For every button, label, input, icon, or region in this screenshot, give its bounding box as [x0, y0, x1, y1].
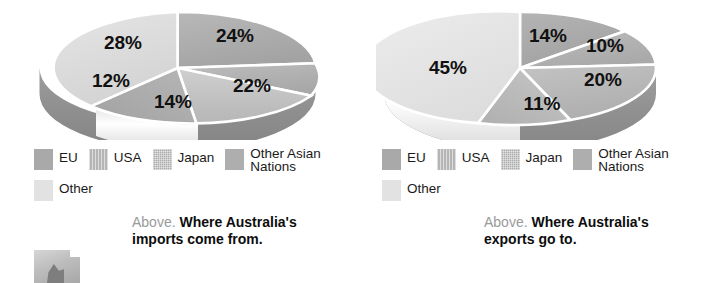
legend-item-usa[interactable]: USA — [89, 148, 142, 170]
legend-label-usa: USA — [462, 148, 490, 165]
legend-row-secondary: Other — [34, 179, 344, 201]
legend-swatch-usa-icon — [437, 149, 456, 170]
legend-label-usa: USA — [114, 148, 142, 165]
legend-item-other[interactable]: Other — [382, 179, 441, 201]
legend-swatch-other-icon — [34, 180, 53, 201]
legend-label-eu: EU — [59, 148, 78, 165]
legend-label-other-asian-nations: Other Asian Nations — [250, 148, 326, 173]
pie-label-imports-2: 14% — [154, 91, 192, 112]
chart-panel-imports: 24% 22% 14% 12% 28% EU USA Japan Other A… — [0, 0, 355, 283]
caption-imports: Above. Where Australia's imports come fr… — [132, 214, 347, 248]
legend-swatch-usa-icon — [89, 149, 108, 170]
caption-prefix-imports: Above. — [132, 214, 176, 230]
legend-row-primary: EU USA Japan Other Asian Nations — [34, 148, 344, 173]
legend-item-eu[interactable]: EU — [34, 148, 78, 170]
legend-row-secondary: Other — [382, 179, 692, 201]
legend-label-japan: Japan — [178, 148, 215, 165]
legend-swatch-eu-icon — [382, 149, 401, 170]
pie-label-exports-3: 11% — [524, 93, 561, 114]
pie-label-exports-2: 20% — [584, 69, 622, 90]
legend-label-japan: Japan — [526, 148, 563, 165]
chart-panel-exports: 14% 10% 20% 11% 45% EU USA Japan Other A… — [354, 0, 709, 283]
pie-chart-imports-svg: 24% 22% 14% 12% 28% — [30, 4, 325, 140]
pie-chart-exports-svg: 14% 10% 20% 11% 45% — [376, 4, 666, 140]
legend-swatch-japan-icon — [501, 149, 520, 170]
legend-exports: EU USA Japan Other Asian Nations Other — [382, 148, 692, 207]
legend-swatch-japan-icon — [153, 149, 172, 170]
legend-item-japan[interactable]: Japan — [153, 148, 215, 170]
legend-row-primary: EU USA Japan Other Asian Nations — [382, 148, 692, 173]
legend-item-usa[interactable]: USA — [437, 148, 490, 170]
caption-exports: Above. Where Australia's exports go to. — [484, 214, 699, 248]
pie-label-imports-0: 24% — [216, 25, 254, 46]
legend-item-other-asian-nations[interactable]: Other Asian Nations — [225, 148, 326, 173]
legend-label-other: Other — [407, 179, 441, 196]
legend-item-japan[interactable]: Japan — [501, 148, 563, 170]
photo-fragment-notch — [70, 250, 80, 257]
legend-item-other[interactable]: Other — [34, 179, 93, 201]
legend-label-other: Other — [59, 179, 93, 196]
pie-label-exports-4: 45% — [429, 57, 467, 78]
pie-label-imports-3: 12% — [92, 70, 130, 91]
pie-label-imports-4: 28% — [104, 32, 142, 53]
legend-swatch-eu-icon — [34, 149, 53, 170]
pie-label-exports-1: 10% — [586, 35, 624, 56]
pie-label-exports-0: 14% — [529, 25, 567, 46]
pie-label-imports-1: 22% — [233, 75, 271, 96]
legend-swatch-other-asian-nations-icon — [573, 149, 592, 170]
legend-item-other-asian-nations[interactable]: Other Asian Nations — [573, 148, 674, 173]
legend-label-eu: EU — [407, 148, 426, 165]
caption-prefix-exports: Above. — [484, 214, 528, 230]
pie-chart-exports: 14% 10% 20% 11% 45% — [376, 4, 666, 140]
legend-swatch-other-icon — [382, 180, 401, 201]
photo-fragment-artifact — [34, 250, 80, 283]
legend-swatch-other-asian-nations-icon — [225, 149, 244, 170]
pie-chart-imports: 24% 22% 14% 12% 28% — [30, 4, 325, 140]
legend-label-other-asian-nations: Other Asian Nations — [598, 148, 674, 173]
legend-imports: EU USA Japan Other Asian Nations Other — [34, 148, 344, 207]
legend-item-eu[interactable]: EU — [382, 148, 426, 170]
